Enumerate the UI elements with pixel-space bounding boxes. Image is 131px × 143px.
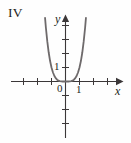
y-axis-label: y (55, 13, 60, 25)
y-axis-tick-label-one: 1 (54, 61, 60, 72)
y-axis-arrowhead (62, 15, 69, 23)
origin-tick-label: 0 (57, 83, 63, 94)
x-axis-label: x (115, 85, 120, 97)
graph-figure: IV x y 0 1 1 (0, 0, 131, 143)
coordinate-plot (0, 0, 131, 143)
panel-label: IV (8, 6, 23, 20)
x-axis-tick-label-one: 1 (76, 84, 82, 95)
